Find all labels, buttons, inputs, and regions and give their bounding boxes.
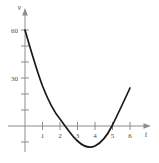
x-tick-label-2: 2 (58, 132, 62, 140)
x-tick-label-5: 5 (111, 132, 115, 140)
y-tick-label-60: 60 (11, 27, 19, 35)
x-axis-label: t (145, 130, 148, 139)
chart-figure: 60 30 1 2 3 4 5 6 v t (0, 0, 159, 163)
x-axis-arrowhead (144, 123, 152, 129)
x-tick-label-1: 1 (41, 132, 45, 140)
velocity-time-chart: 60 30 1 2 3 4 5 6 v t (0, 0, 159, 163)
x-tick-label-6: 6 (128, 132, 132, 140)
y-tick-label-30: 30 (11, 75, 19, 83)
x-tick-label-4: 4 (93, 132, 97, 140)
y-axis-arrowhead (22, 8, 28, 16)
y-axis-label: v (18, 3, 22, 12)
x-tick-label-3: 3 (76, 132, 80, 140)
